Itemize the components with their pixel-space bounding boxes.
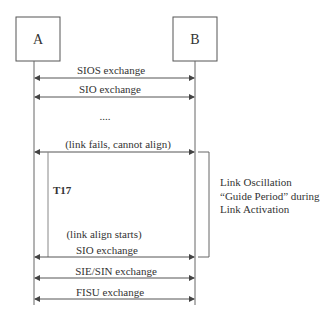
timer-t17-label: T17 (53, 184, 72, 196)
note-link-align-starts: (link align starts) (66, 228, 141, 241)
message-label-link-fails: (link fails, cannot align) (65, 138, 171, 151)
guide-period-bracket (198, 152, 209, 257)
message-label-sio-2: SIO exchange (76, 244, 138, 256)
annotation-line-3: Link Activation (220, 203, 290, 215)
message-label-sio: SIO exchange (79, 83, 141, 95)
annotation-line-1: Link Oscillation (220, 176, 292, 188)
participant-b-label: B (190, 32, 199, 47)
message-label-sie-sin: SIE/SIN exchange (75, 265, 157, 277)
annotation-guide-period: Link Oscillation “Guide Period” during L… (220, 176, 320, 215)
participant-a-label: A (33, 32, 44, 47)
message-label-sios: SIOS exchange (77, 64, 145, 76)
participant-a: A (16, 17, 60, 61)
participant-b: B (173, 17, 217, 61)
sequence-diagram: A B SIOS exchange SIO exchange .... (lin… (0, 0, 328, 319)
ellipsis: .... (100, 110, 111, 122)
annotation-line-2: “Guide Period” during (220, 190, 320, 202)
message-label-fisu: FISU exchange (76, 286, 144, 298)
